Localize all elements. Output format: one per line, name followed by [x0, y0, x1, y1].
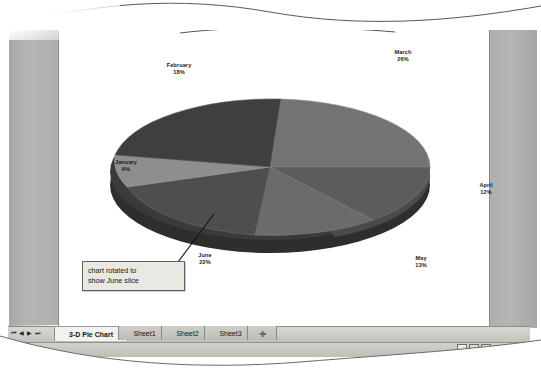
page-curl-bottom — [0, 334, 541, 368]
pie-label-april: April 12% — [463, 182, 509, 196]
pie-label-february: February 18% — [150, 62, 208, 76]
pie-label-march: March 26% — [374, 49, 432, 63]
worksheet-right-margin — [487, 19, 537, 328]
pie-slice-march — [270, 99, 430, 167]
excel-chart-sheet-screenshot: Semiannual Financial Projections — [0, 0, 541, 368]
worksheet-left-margin — [9, 25, 60, 326]
pie-slice-february — [115, 99, 281, 167]
callout-box[interactable]: chart rotated to show June slice — [82, 261, 185, 291]
callout-text: chart rotated to show June slice — [88, 266, 139, 285]
page-curl-top — [0, 0, 541, 30]
scanned-page: Semiannual Financial Projections — [0, 0, 541, 368]
pie-label-january: January 9% — [100, 159, 152, 173]
pie-chart-graphic[interactable] — [105, 55, 435, 265]
pie-label-may: May 13% — [398, 255, 444, 269]
